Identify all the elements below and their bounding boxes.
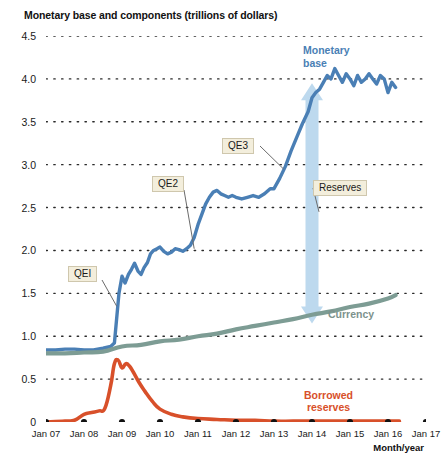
x-axis-title: Month/year (373, 442, 424, 453)
borrowed-label-line2: reserves (307, 401, 350, 413)
callout-qe2: QE2 (152, 176, 184, 192)
series-label-borrowed-reserves: Borrowed reserves (304, 389, 353, 413)
series-label-monetary-base: Monetary base (303, 44, 350, 70)
y-axis-tick-label: 1.5 (6, 287, 36, 299)
series-line (46, 295, 396, 353)
x-axis-tick-label: Jan 17 (403, 428, 445, 439)
monetary-base-label-line2: base (303, 57, 327, 69)
borrowed-label-line1: Borrowed (304, 389, 353, 401)
y-axis-tick-label: 3.5 (6, 116, 36, 128)
plot-area (46, 36, 426, 422)
series-label-currency: Currency (328, 308, 374, 320)
callout-reserves: Reserves (313, 180, 367, 196)
y-axis-tick-label: 0.5 (6, 373, 36, 385)
callout-qe3: QE3 (222, 138, 254, 154)
chart-title: Monetary base and components (trillions … (24, 9, 277, 21)
y-axis-tick-label: 4.5 (6, 30, 36, 42)
series-layer (46, 69, 399, 422)
y-axis-tick-label: 1.0 (6, 330, 36, 342)
y-axis-tick-label: 3.0 (6, 159, 36, 171)
y-axis-tick-label: 0 (6, 416, 36, 428)
callout-qe1: QEI (68, 266, 97, 282)
y-axis-tick-label: 4.0 (6, 73, 36, 85)
callout-leader-lines (102, 146, 319, 306)
y-axis-tick-label: 2.0 (6, 244, 36, 256)
monetary-base-label-line1: Monetary (303, 44, 350, 56)
y-axis-tick-label: 2.5 (6, 202, 36, 214)
